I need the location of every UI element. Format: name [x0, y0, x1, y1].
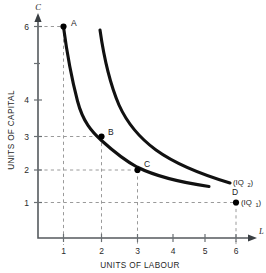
curve-label-iq1-main: (IQ	[241, 198, 252, 207]
isoquant-curve-iq2	[100, 30, 230, 183]
x-tick-label-1: 1	[61, 246, 66, 256]
curve-legend-iq2: (IQ 2 )	[233, 178, 254, 188]
y-tick-labels: 6 4 3 2 1	[24, 22, 29, 208]
data-point-label-a: A	[71, 18, 77, 28]
x-axis-symbol: L	[258, 226, 264, 236]
curve-label-iq1-close: )	[259, 198, 262, 207]
y-tick-label-1: 1	[24, 198, 29, 208]
data-point-a	[60, 23, 66, 29]
x-tick-label-3: 3	[135, 246, 140, 256]
isoquant-curve-iq1	[64, 27, 210, 187]
y-tick-label-6: 6	[24, 22, 29, 32]
y-axis-title: UNITS OF CAPITAL	[7, 90, 16, 170]
isoquant-chart-svg: 6 4 3 2 1 1 2 3 4 5 6 A	[0, 0, 266, 273]
data-point-label-c: C	[144, 159, 150, 169]
x-axis-title: UNITS OF LABOUR	[100, 261, 179, 270]
x-axis-arrow-icon	[248, 234, 257, 241]
x-tick-label-6: 6	[234, 246, 239, 256]
curve-label-iq2-main: (IQ	[233, 178, 244, 187]
data-point-label-b: B	[108, 127, 114, 137]
x-tick-label-2: 2	[99, 246, 104, 256]
isoquant-chart-figure: 6 4 3 2 1 1 2 3 4 5 6 A	[0, 0, 266, 273]
data-point-label-d: D	[232, 187, 238, 197]
data-point-c	[134, 167, 140, 173]
y-tick-label-4: 4	[24, 95, 29, 105]
curve-label-iq2-close: )	[251, 178, 254, 187]
data-point-d	[233, 199, 239, 205]
x-tick-label-5: 5	[203, 246, 208, 256]
y-tick-label-3: 3	[24, 132, 29, 142]
y-axis-arrow-icon	[34, 13, 41, 22]
x-tick-label-4: 4	[171, 246, 176, 256]
y-axis-symbol: C	[35, 2, 41, 12]
data-point-b	[98, 133, 104, 139]
y-tick-label-2: 2	[24, 165, 29, 175]
x-tick-labels: 1 2 3 4 5 6	[61, 246, 239, 256]
curve-legend-iq1: (IQ 1 )	[241, 198, 262, 208]
axis-lines	[38, 20, 250, 238]
